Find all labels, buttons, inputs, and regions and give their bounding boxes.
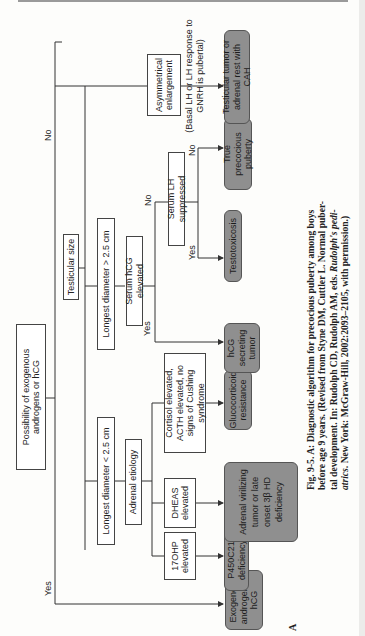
diameter-large-text: Longest diameter > 2.5 cm: [101, 231, 112, 338]
root-question-text: Possibility of exogenous androgens or hC…: [21, 328, 42, 466]
outcome-testotoxicosis-text: Testotoxicosis: [228, 218, 239, 274]
outcome-glucocorticoid: Glucocorticoid resistance: [224, 370, 252, 430]
caption-line-2: before age 9 years. (Revised from Styne …: [316, 201, 327, 490]
diameter-large-box: Longest diameter > 2.5 cm: [97, 218, 115, 350]
hcg-no-label: No: [143, 194, 153, 206]
caption-book-title: Rudolph's pedi-: [328, 209, 339, 272]
testicular-size-box: Testicular size: [63, 234, 79, 300]
dheas-elevated-text: DHEAS elevated: [170, 482, 191, 524]
root-yes-label: Yes: [43, 581, 53, 596]
outcome-true-precocious: True precocious puberty: [224, 118, 252, 190]
hcg-yes-label: Yes: [142, 321, 152, 336]
caption-line-1: Fig. 9-5. A: Diagnostic algorithm for pr…: [305, 201, 316, 490]
outcome-testicular-tumor-text: Testicular tumor or adrenal rest with CA…: [221, 34, 253, 120]
cortisol-elevated-text: Cortisol elevated, ACTH elevated, no sig…: [164, 357, 206, 449]
outcome-hcg-tumor: hCG secreting tumor: [224, 323, 260, 373]
outcome-glucocorticoid-text: Glucocorticoid resistance: [228, 371, 249, 428]
panel-label: A: [287, 624, 298, 631]
serum-lh-text: Serum LH suppressed: [166, 156, 187, 242]
diameter-small-text: Longest diameter < 2.5 cm: [101, 428, 112, 535]
serum-lh-box: Serum LH suppressed: [168, 152, 185, 246]
asymmetrical-text: Asymmetrical enlargement: [154, 58, 175, 112]
outcome-testicular-tumor: Testicular tumor or adrenal rest with CA…: [224, 30, 250, 124]
outcome-adrenal-tumor-text: Adrenal virilizing tumor or late onset 3…: [237, 466, 285, 538]
outcome-testotoxicosis: Testotoxicosis: [224, 210, 242, 282]
cortisol-elevated-box: Cortisol elevated, ACTH elevated, no sig…: [164, 353, 206, 453]
testicular-size-text: Testicular size: [66, 239, 77, 296]
outcome-hcg-tumor-text: hCG secreting tumor: [226, 327, 258, 369]
outcome-adrenal-tumor: Adrenal virilizing tumor or late onset 3…: [224, 462, 298, 542]
ohp-elevated-box: 17OHP elevated: [164, 532, 196, 580]
lh-no-note: (Basal LH or LH response to GNRH is pube…: [184, 16, 205, 136]
caption-line-4: atrics. New York: McGraw-Hill, 2002:2093…: [339, 201, 350, 490]
lh-yes-label: Yes: [187, 245, 197, 260]
rotated-flowchart: Possibility of exogenous androgens or hC…: [0, 0, 365, 636]
root-question-box: Possibility of exogenous androgens or hC…: [16, 324, 46, 470]
adrenal-etiology-text: Adrenal etiology: [128, 450, 139, 515]
adrenal-etiology-box: Adrenal etiology: [125, 439, 142, 525]
ohp-elevated-text: 17OHP elevated: [170, 536, 191, 576]
serum-hcg-box: Serum hCG elevated: [126, 236, 143, 326]
caption-line-4-text: . New York: McGraw-Hill, 2002:2093–2105,…: [339, 216, 350, 468]
dheas-elevated-box: DHEAS elevated: [164, 478, 196, 528]
root-no-label: No: [43, 129, 53, 141]
serum-hcg-text: Serum hCG elevated: [124, 240, 145, 322]
caption-line-3: tal development. In: Rudolph CD, Rudolph…: [328, 201, 339, 490]
figure-caption: Fig. 9-5. A: Diagnostic algorithm for pr…: [305, 201, 351, 490]
outcome-true-precocious-text: True precocious puberty: [222, 122, 254, 186]
diameter-small-box: Longest diameter < 2.5 cm: [97, 417, 115, 545]
caption-book-title-cont: atrics: [339, 468, 350, 490]
lh-no-label: No: [187, 144, 197, 156]
asymmetrical-box: Asymmetrical enlargement: [147, 54, 181, 116]
caption-line-3-text: tal development. In: Rudolph CD, Rudolph…: [328, 272, 339, 490]
